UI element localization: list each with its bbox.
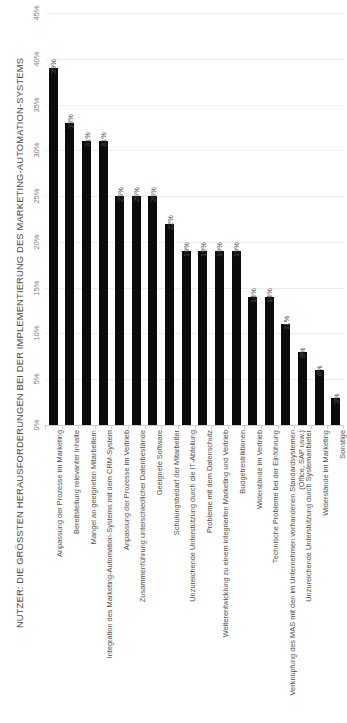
- gridline: [45, 13, 344, 14]
- category-label: Mangel an geeigneten Mitarbeitern: [90, 430, 99, 715]
- bar: [165, 224, 174, 425]
- category-tick: [111, 425, 112, 429]
- bar: [115, 196, 124, 425]
- bar-value-label: 25%: [132, 187, 141, 202]
- bar-value-label: 14%: [249, 288, 258, 303]
- bar-value-label: 25%: [149, 187, 158, 202]
- category-label: Unzureichende Unterstützung durch System…: [305, 430, 314, 715]
- bar-value-label: 19%: [182, 242, 191, 257]
- category-tick: [211, 425, 212, 429]
- category-tick: [128, 425, 129, 429]
- value-axis-tick: 20%: [31, 231, 43, 253]
- category-label: Unzureichende Unterstützung durch die IT…: [189, 430, 198, 715]
- category-label: Anpassung der Prozesse im Vertrieb: [123, 430, 132, 715]
- bar: [198, 251, 207, 425]
- bar-value-label: 33%: [66, 114, 75, 129]
- bar-value-label: 39%: [49, 59, 58, 74]
- category-label: Bereitstellung relevanter Inhalte: [73, 430, 82, 715]
- bar: [132, 196, 141, 425]
- bar: [182, 251, 191, 425]
- bar: [82, 141, 91, 425]
- category-tick: [343, 425, 344, 429]
- category-label: Schulungsbedarf der Mitarbeiter: [173, 430, 182, 715]
- category-label: Integration des Marketing-Automation-Sys…: [106, 430, 115, 715]
- bar-value-label: 22%: [166, 215, 175, 230]
- bar: [49, 68, 58, 425]
- category-tick: [278, 425, 279, 429]
- category-label: Sonstige: [339, 430, 347, 715]
- bar-value-label: 25%: [116, 187, 125, 202]
- category-tick: [327, 425, 328, 429]
- plot-area: 39%33%31%31%25%25%25%22%19%19%19%19%14%1…: [45, 13, 344, 425]
- bar: [298, 352, 307, 425]
- category-label: Probleme mit dem Datenschutz: [206, 430, 215, 715]
- bar: [265, 297, 274, 425]
- bar-value-label: 3%: [332, 393, 341, 404]
- category-tick: [78, 425, 79, 429]
- category-label: Anpassung der Prozesse im Marketing: [56, 430, 65, 715]
- value-axis-tick: 30%: [31, 139, 43, 161]
- category-tick: [228, 425, 229, 429]
- category-tick: [161, 425, 162, 429]
- bar-value-label: 31%: [99, 132, 108, 147]
- bar: [248, 297, 257, 425]
- category-label: Widerstände im Vertrieb: [256, 430, 265, 715]
- category-label: Widerstände im Marketing: [322, 430, 331, 715]
- value-axis-tick: 45%: [31, 2, 43, 24]
- category-tick: [195, 425, 196, 429]
- bar: [281, 324, 290, 425]
- category-tick: [95, 425, 96, 429]
- category-tick: [62, 425, 63, 429]
- category-tick: [261, 425, 262, 429]
- gridline: [45, 59, 344, 60]
- category-tick: [45, 425, 46, 429]
- bar: [148, 196, 157, 425]
- bar-value-label: 31%: [83, 132, 92, 147]
- category-tick: [294, 425, 295, 429]
- category-label: Technische Probleme bei der Einführung: [272, 430, 281, 715]
- value-axis-tick: 5%: [31, 368, 43, 390]
- category-tick: [145, 425, 146, 429]
- category-label: Geeignete Software: [156, 430, 165, 715]
- gridline: [45, 105, 344, 106]
- bar: [315, 370, 324, 425]
- category-axis: Anpassung der Prozesse im MarketingBerei…: [45, 430, 344, 720]
- bar-value-label: 19%: [232, 242, 241, 257]
- value-axis-tick: 10%: [31, 322, 43, 344]
- value-axis-tick: 0%: [31, 414, 43, 436]
- category-tick: [244, 425, 245, 429]
- category-label: Budgetrestriktionen: [239, 430, 248, 715]
- bar: [65, 123, 74, 425]
- category-tick: [178, 425, 179, 429]
- value-axis-tick: 35%: [31, 94, 43, 116]
- value-axis-tick: 40%: [31, 48, 43, 70]
- bar: [215, 251, 224, 425]
- category-tick: [311, 425, 312, 429]
- value-axis-tick: 15%: [31, 277, 43, 299]
- bar-value-label: 11%: [282, 316, 291, 330]
- bar-value-label: 14%: [265, 288, 274, 303]
- bar-value-label: 19%: [199, 242, 208, 257]
- bar-value-label: 6%: [315, 365, 324, 376]
- category-label: Zusammenführung unterschiedlicher Datenb…: [139, 430, 148, 715]
- bar: [232, 251, 241, 425]
- bar-value-label: 19%: [215, 242, 224, 257]
- bar-value-label: 8%: [298, 347, 307, 358]
- category-label: Weiterentwicklung zu einem integrierten …: [222, 430, 231, 715]
- value-axis-tick: 25%: [31, 185, 43, 207]
- bar: [99, 141, 108, 425]
